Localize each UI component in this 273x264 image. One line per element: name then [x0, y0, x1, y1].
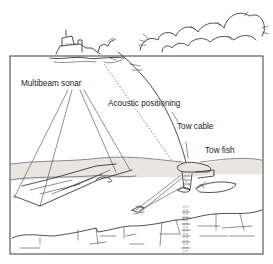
tow-cable-leader [172, 112, 178, 122]
survey-diagram [0, 0, 273, 264]
sub-bottom-profile [182, 206, 190, 254]
sediment-layer [11, 157, 262, 180]
label-acoustic-positioning: Acoustic positioning [108, 100, 180, 108]
label-tow-fish: Tow fish [205, 147, 235, 155]
side-scan-beams [132, 176, 236, 214]
label-tow-cable: Tow cable [177, 123, 213, 131]
survey-ship [50, 30, 142, 70]
label-multibeam-sonar: Multibeam sonar [21, 80, 82, 88]
clouds [139, 12, 268, 52]
seafloor [12, 210, 262, 248]
tow-fish-leader [186, 142, 188, 158]
